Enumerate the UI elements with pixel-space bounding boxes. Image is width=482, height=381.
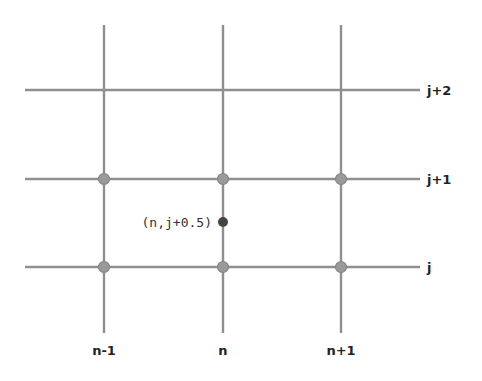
grid-node xyxy=(336,262,347,273)
grid-node xyxy=(218,174,229,185)
half-point-marker xyxy=(218,217,228,227)
grid-diagram: (n,j+0.5) j+2 j+1 j n-1 n n+1 xyxy=(0,0,482,381)
grid-node xyxy=(336,174,347,185)
row-label-j: j xyxy=(426,260,431,275)
col-label-n-1: n-1 xyxy=(92,343,116,358)
row-label-j+1: j+1 xyxy=(426,172,451,187)
row-label-j+2: j+2 xyxy=(426,83,451,98)
grid-node xyxy=(218,262,229,273)
col-label-n: n xyxy=(218,343,227,358)
grid-node xyxy=(99,262,110,273)
half-point-label: (n,j+0.5) xyxy=(142,215,212,230)
grid-node xyxy=(99,174,110,185)
col-label-n+1: n+1 xyxy=(326,343,355,358)
